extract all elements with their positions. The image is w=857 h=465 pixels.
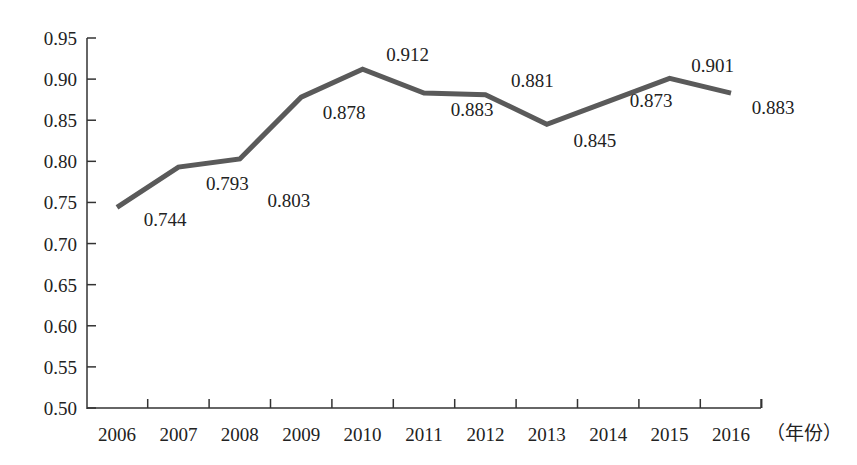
x-tick-label: 2011 — [405, 424, 442, 445]
y-tick-label: 0.60 — [44, 316, 77, 337]
x-axis: 2006200720082009201020112012201320142015… — [87, 399, 842, 445]
data-point-label: 0.873 — [630, 90, 673, 111]
y-tick-label: 0.70 — [44, 234, 77, 255]
x-axis-unit-label: （年份） — [766, 422, 842, 444]
data-point-label: 0.883 — [752, 97, 795, 118]
y-tick-label: 0.65 — [44, 275, 77, 296]
x-tick-label: 2012 — [466, 424, 504, 445]
x-tick-label: 2008 — [221, 424, 259, 445]
y-tick-label: 0.55 — [44, 357, 77, 378]
data-point-label: 0.793 — [206, 173, 249, 194]
y-tick-label: 0.80 — [44, 151, 77, 172]
data-point-label: 0.744 — [144, 209, 187, 230]
data-point-label: 0.845 — [573, 130, 616, 151]
line-chart: 0.500.550.600.650.700.750.800.850.900.95… — [0, 0, 857, 465]
x-tick-label: 2010 — [344, 424, 382, 445]
x-tick-label: 2014 — [589, 424, 628, 445]
y-tick-label: 0.90 — [44, 69, 77, 90]
y-tick-label: 0.95 — [44, 28, 77, 49]
y-tick-label: 0.75 — [44, 192, 77, 213]
data-point-label: 0.803 — [267, 190, 310, 211]
y-tick-label: 0.50 — [44, 398, 77, 419]
x-tick-label: 2007 — [159, 424, 197, 445]
data-point-label: 0.912 — [386, 44, 429, 65]
data-point-label: 0.881 — [511, 70, 554, 91]
y-axis: 0.500.550.600.650.700.750.800.850.900.95 — [44, 28, 96, 419]
x-tick-label: 2006 — [98, 424, 136, 445]
x-tick-label: 2013 — [528, 424, 566, 445]
data-labels: 0.7440.7930.8030.8780.9120.8830.8810.845… — [144, 44, 795, 230]
x-tick-label: 2015 — [651, 424, 689, 445]
data-point-label: 0.883 — [451, 99, 494, 120]
data-point-label: 0.878 — [323, 102, 366, 123]
x-tick-label: 2016 — [712, 424, 750, 445]
x-tick-label: 2009 — [282, 424, 320, 445]
data-point-label: 0.901 — [691, 55, 734, 76]
y-tick-label: 0.85 — [44, 110, 77, 131]
